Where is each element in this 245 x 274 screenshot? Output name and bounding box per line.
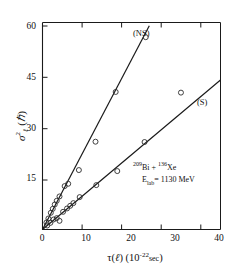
fit-lines-group: [43, 26, 221, 230]
projectile-mass-number: 209: [133, 161, 142, 167]
target-symbol: Xe: [167, 163, 176, 172]
data-point: [178, 90, 183, 95]
plot-area: [0, 0, 245, 274]
figure-root: σ2ℓ (ℏ) τ(ℓ) (10-22sec) 60 45 30 15 0 10…: [0, 0, 245, 274]
series-label-ns: (NS): [133, 28, 150, 38]
data-point: [76, 168, 81, 173]
x-axis-ticks: [43, 23, 201, 230]
reaction-annotation: 209Bi + 136Xe Elab= 1130 MeV: [133, 158, 195, 188]
target-mass-number: 136: [158, 161, 167, 167]
projectile-symbol: Bi: [142, 163, 150, 172]
reaction-formula-line: 209Bi + 136Xe: [133, 158, 195, 174]
y-axis-ticks: [43, 26, 48, 180]
energy-value: 1130: [161, 175, 177, 184]
data-markers-group: [44, 35, 183, 228]
series-label-s: (S): [197, 97, 207, 107]
reaction-plus: +: [152, 163, 157, 172]
energy-unit: MeV: [178, 175, 194, 184]
beam-energy-line: Elab= 1130 MeV: [133, 174, 195, 189]
axis-frame: [43, 23, 221, 230]
data-point: [93, 139, 98, 144]
energy-equals: =: [154, 175, 159, 184]
data-point: [115, 169, 120, 174]
